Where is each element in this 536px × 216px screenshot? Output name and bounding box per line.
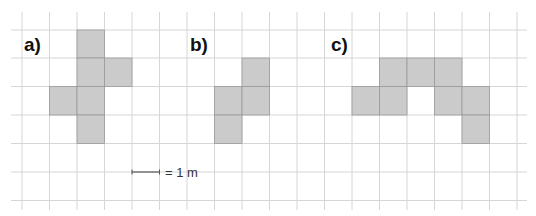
shape-cell	[435, 87, 463, 116]
scale-legend-text: = 1 m	[165, 166, 198, 179]
scale-bar	[132, 170, 160, 175]
shape-cell	[462, 87, 490, 116]
shape-cell	[215, 87, 243, 116]
shape-cell	[77, 115, 105, 144]
shape-b	[215, 58, 270, 144]
label-b: b)	[190, 35, 208, 54]
shape-cell	[352, 87, 380, 116]
shape-cell	[50, 87, 78, 116]
shape-cell	[407, 58, 435, 87]
shape-cell	[380, 58, 408, 87]
shape-cell	[105, 58, 133, 87]
shape-cell	[242, 87, 270, 116]
shape-cell	[380, 87, 408, 116]
shape-cell	[242, 58, 270, 87]
shape-c	[352, 58, 490, 144]
label-a: a)	[24, 35, 41, 54]
grid-figure	[0, 0, 536, 216]
shape-cell	[462, 115, 490, 144]
shape-a	[50, 30, 133, 144]
label-c: c)	[331, 35, 348, 54]
shape-cell	[77, 30, 105, 58]
shape-cell	[77, 87, 105, 116]
shape-cell	[435, 58, 463, 87]
shape-cell	[77, 58, 105, 87]
shape-cell	[215, 115, 243, 144]
